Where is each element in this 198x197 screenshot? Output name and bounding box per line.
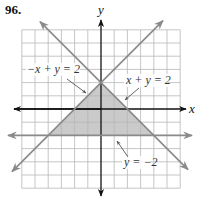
label-neg-x-plus-y-eq-2: −x + y = 2 <box>27 62 80 76</box>
pointer-arrow-neg-x-plus-y <box>67 79 86 93</box>
label-y-eq-neg-2: y = −2 <box>123 155 158 169</box>
label-x-plus-y-eq-2: x + y = 2 <box>125 73 171 87</box>
x-axis-label: x <box>188 101 195 116</box>
y-axis-label: y <box>96 2 104 17</box>
graph: x y −x + y = 2 x + y = 2 y = −2 <box>0 0 198 197</box>
